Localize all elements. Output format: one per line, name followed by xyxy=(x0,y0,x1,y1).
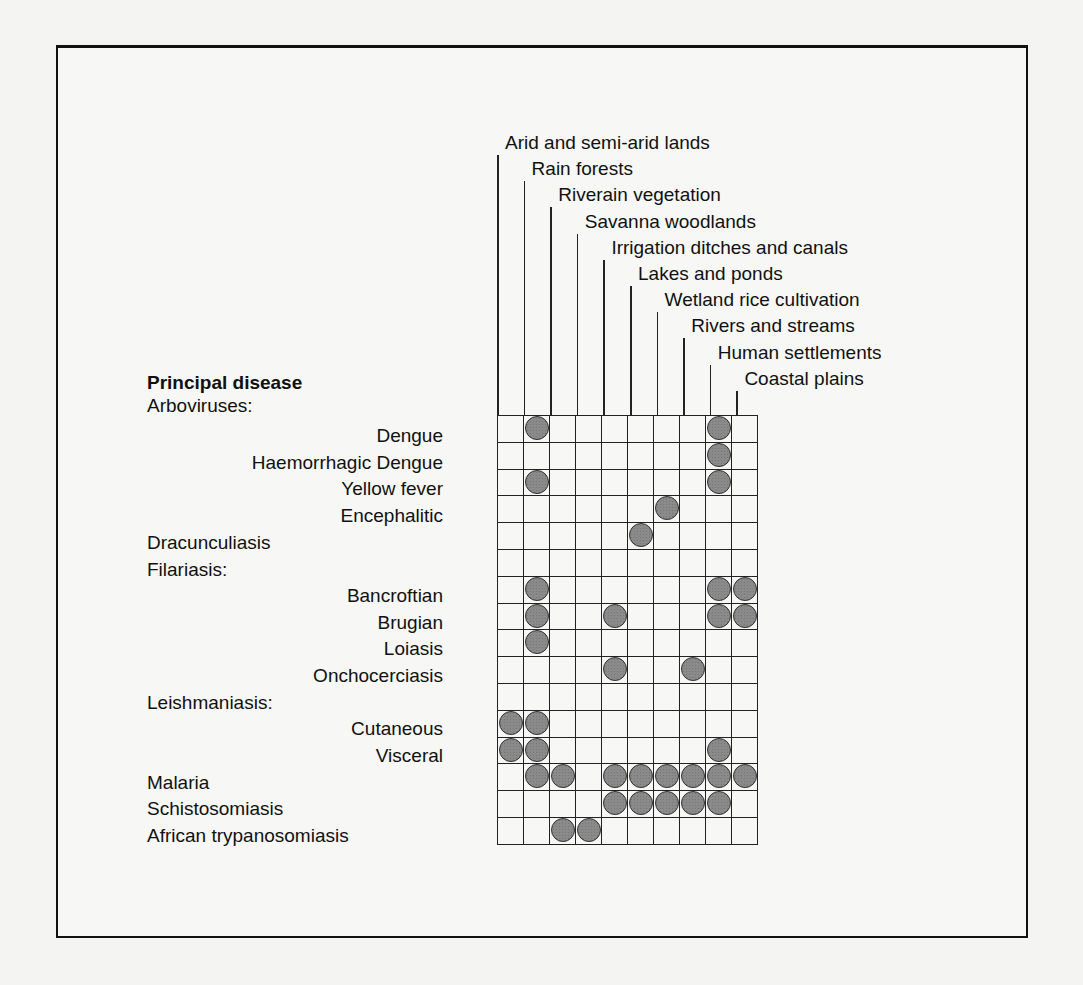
presence-dot-icon xyxy=(707,738,731,762)
grid-cell xyxy=(602,576,628,603)
grid-cell xyxy=(654,683,680,710)
group-filariasis: Filariasis: xyxy=(147,559,227,581)
grid-cell xyxy=(628,416,654,443)
grid-row xyxy=(498,496,758,523)
grid-cell xyxy=(550,791,576,818)
grid-cell xyxy=(680,683,706,710)
presence-dot-icon xyxy=(525,711,549,735)
grid-cell xyxy=(706,791,732,818)
grid-cell xyxy=(706,469,732,496)
grid-row xyxy=(498,523,758,550)
grid-cell xyxy=(550,442,576,469)
presence-dot-icon xyxy=(525,577,549,601)
presence-dot-icon xyxy=(499,711,523,735)
grid-cell xyxy=(654,791,680,818)
grid-cell xyxy=(628,710,654,737)
grid-cell xyxy=(602,442,628,469)
grid-cell xyxy=(524,469,550,496)
grid-cell xyxy=(498,657,524,684)
presence-dot-icon xyxy=(525,416,549,440)
header-leader-line xyxy=(630,286,632,415)
grid-cell xyxy=(680,817,706,844)
presence-dot-icon xyxy=(525,764,549,788)
presence-dot-icon xyxy=(551,818,575,842)
presence-dot-icon xyxy=(733,604,757,628)
presence-dot-icon xyxy=(655,764,679,788)
grid-cell xyxy=(628,603,654,630)
grid-cell xyxy=(680,603,706,630)
grid-cell xyxy=(732,710,758,737)
grid-cell xyxy=(602,817,628,844)
grid-cell xyxy=(576,549,602,576)
grid-cell xyxy=(706,523,732,550)
row-schistosomiasis: Schistosomiasis xyxy=(147,798,283,820)
grid-cell xyxy=(576,523,602,550)
grid-cell xyxy=(576,683,602,710)
presence-dot-icon xyxy=(707,416,731,440)
grid-cell xyxy=(680,791,706,818)
habitat-header: Savanna woodlands xyxy=(585,212,756,232)
habitat-header: Rivers and streams xyxy=(691,316,855,336)
grid-cell xyxy=(680,710,706,737)
grid-cell xyxy=(602,630,628,657)
grid-row xyxy=(498,764,758,791)
grid-cell xyxy=(498,469,524,496)
grid-cell xyxy=(550,523,576,550)
grid-cell xyxy=(524,496,550,523)
grid-cell xyxy=(498,416,524,443)
grid-cell xyxy=(628,496,654,523)
grid-cell xyxy=(576,496,602,523)
header-leader-line xyxy=(710,365,712,415)
grid-cell xyxy=(706,603,732,630)
grid-cell xyxy=(732,496,758,523)
grid-cell xyxy=(576,603,602,630)
presence-dot-icon xyxy=(525,604,549,628)
header-leader-line xyxy=(524,181,526,415)
grid-cell xyxy=(550,737,576,764)
grid-cell xyxy=(602,469,628,496)
header-leader-line xyxy=(497,155,499,415)
grid-cell xyxy=(524,817,550,844)
grid-cell xyxy=(680,737,706,764)
row-haemorrhagic-dengue: Haemorrhagic Dengue xyxy=(143,452,443,474)
presence-dot-icon xyxy=(603,604,627,628)
grid-row xyxy=(498,791,758,818)
grid-row xyxy=(498,442,758,469)
row-african-trypanosomiasis: African trypanosomiasis xyxy=(147,825,349,847)
grid-cell xyxy=(602,603,628,630)
grid-cell xyxy=(498,764,524,791)
grid-cell xyxy=(498,791,524,818)
row-loiasis: Loiasis xyxy=(143,638,443,660)
row-dengue: Dengue xyxy=(143,425,443,447)
grid-row xyxy=(498,469,758,496)
header-leader-line xyxy=(657,312,659,415)
grid-cell xyxy=(706,764,732,791)
habitat-header: Arid and semi-arid lands xyxy=(505,133,710,153)
grid-cell xyxy=(732,630,758,657)
grid-cell xyxy=(628,576,654,603)
grid-cell xyxy=(628,737,654,764)
grid-cell xyxy=(524,764,550,791)
grid-cell xyxy=(524,523,550,550)
grid-cell xyxy=(654,630,680,657)
grid-cell xyxy=(706,442,732,469)
row-header-title: Principal disease xyxy=(147,372,302,394)
grid-cell xyxy=(524,683,550,710)
presence-dot-icon xyxy=(603,657,627,681)
grid-cell xyxy=(628,442,654,469)
grid-cell xyxy=(680,764,706,791)
presence-dot-icon xyxy=(681,764,705,788)
grid-cell xyxy=(654,817,680,844)
grid-cell xyxy=(524,630,550,657)
row-brugian: Brugian xyxy=(143,612,443,634)
grid-cell xyxy=(602,764,628,791)
grid-cell xyxy=(628,817,654,844)
grid-cell xyxy=(550,496,576,523)
grid-cell xyxy=(706,576,732,603)
habitat-header: Lakes and ponds xyxy=(638,264,783,284)
grid-row xyxy=(498,630,758,657)
grid-cell xyxy=(706,817,732,844)
grid-cell xyxy=(654,764,680,791)
grid-cell xyxy=(628,764,654,791)
habitat-header: Riverain vegetation xyxy=(558,185,721,205)
